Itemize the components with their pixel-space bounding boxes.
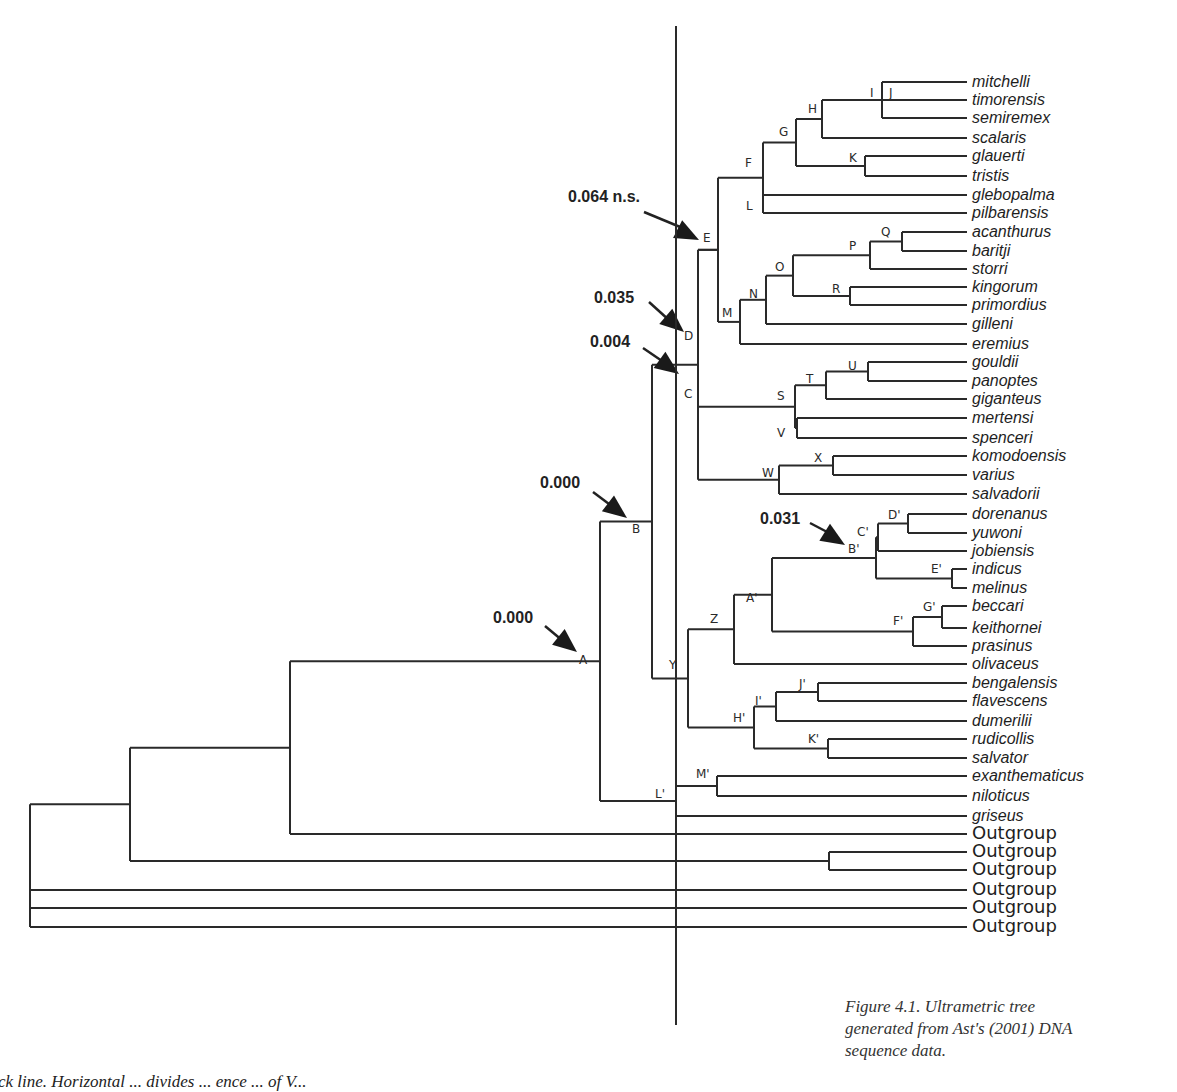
leaf-label-komodoensis: komodoensis <box>972 447 1066 464</box>
node-label: I' <box>755 694 762 708</box>
tree-labels: mitchellitimorensissemiremexscalarisglau… <box>970 73 1084 936</box>
node-label: G' <box>923 600 936 614</box>
node-label: K' <box>808 732 819 746</box>
node-label: S <box>777 389 785 403</box>
leaf-label-glebopalma: glebopalma <box>972 186 1055 203</box>
leaf-label-varius: varius <box>972 466 1015 483</box>
leaf-label-timorensis: timorensis <box>972 91 1045 108</box>
annotation-value: 0.064 n.s. <box>568 188 640 205</box>
leaf-label-giganteus: giganteus <box>972 390 1041 407</box>
phylogenetic-tree: mitchellitimorensissemiremexscalarisglau… <box>0 0 1177 1060</box>
node-label: J <box>888 86 893 100</box>
node-label: R <box>832 282 840 296</box>
leaf-label-salvadorii: salvadorii <box>972 485 1040 502</box>
leaf-label-tristis: tristis <box>972 167 1009 184</box>
node-label: G <box>779 125 788 139</box>
tree-branches <box>30 82 967 927</box>
node-label: M' <box>696 767 710 781</box>
annotation-value: 0.000 <box>493 609 533 626</box>
leaf-label-scalaris: scalaris <box>972 129 1026 146</box>
node-label: B' <box>848 542 860 556</box>
leaf-label-jobiensis: jobiensis <box>970 542 1034 559</box>
leaf-label-exanthematicus: exanthematicus <box>972 767 1084 784</box>
leaf-label-storri: storri <box>972 260 1008 277</box>
annotation-value: 0.004 <box>590 333 630 350</box>
leaf-label-dumerilii: dumerilii <box>972 712 1032 729</box>
figure-caption: Figure 4.1. Ultrametric tree generated f… <box>845 996 1165 1062</box>
node-label: E <box>703 231 711 245</box>
leaf-label-pilbarensis: pilbarensis <box>971 204 1048 221</box>
arrow-head-icon <box>659 309 684 332</box>
leaf-label-melinus: melinus <box>972 579 1027 596</box>
node-label: H <box>808 102 817 116</box>
leaf-label-olivaceus: olivaceus <box>972 655 1039 672</box>
leaf-label-og5: Outgroup <box>972 896 1057 917</box>
leaf-label-glauerti: glauerti <box>972 147 1025 164</box>
leaf-label-rudicollis: rudicollis <box>972 730 1034 747</box>
node-label: V <box>777 426 786 440</box>
node-label: C <box>684 387 692 401</box>
node-label: W <box>762 466 774 480</box>
node-label: O <box>775 260 784 274</box>
node-label: M <box>722 306 732 320</box>
leaf-label-dorenanus: dorenanus <box>972 505 1048 522</box>
caption-line-1: Figure 4.1. Ultrametric tree <box>845 996 1165 1018</box>
caption-line-2: generated from Ast's (2001) DNA <box>845 1018 1165 1040</box>
node-label: N <box>749 287 758 301</box>
annotation-value: 0.000 <box>540 474 580 491</box>
leaf-label-bengalensis: bengalensis <box>972 674 1057 691</box>
leaf-label-mertensi: mertensi <box>972 409 1034 426</box>
node-label: A' <box>746 591 758 605</box>
leaf-label-spenceri: spenceri <box>972 429 1033 446</box>
leaf-label-panoptes: panoptes <box>971 372 1038 389</box>
node-label: E' <box>931 562 942 576</box>
node-label: H' <box>733 711 745 725</box>
node-label: T <box>805 372 814 386</box>
node-label: I <box>870 86 874 100</box>
node-label: C' <box>857 525 869 539</box>
annotation-value: 0.031 <box>760 510 800 527</box>
arrow-head-icon <box>819 524 845 545</box>
arrow-shaft <box>644 212 685 229</box>
leaf-label-acanthurus: acanthurus <box>972 223 1051 240</box>
node-label: U <box>848 359 857 373</box>
leaf-label-yuwoni: yuwoni <box>971 524 1022 541</box>
leaf-label-mitchelli: mitchelli <box>972 73 1030 90</box>
node-label: F <box>745 156 752 170</box>
annotation-value: 0.035 <box>594 289 634 306</box>
leaf-label-og6: Outgroup <box>972 915 1057 936</box>
leaf-label-keithornei: keithornei <box>972 619 1042 636</box>
node-label: D <box>684 329 693 343</box>
node-label: K <box>849 151 858 165</box>
leaf-label-semiremex: semiremex <box>972 109 1051 126</box>
node-label: D' <box>888 508 901 522</box>
body-text-fragment: ck line. Horizontal ... divides ... ence… <box>0 1072 306 1092</box>
leaf-label-prasinus: prasinus <box>971 637 1032 654</box>
node-label: L' <box>655 787 665 801</box>
node-label: L <box>746 199 753 213</box>
leaf-label-niloticus: niloticus <box>972 787 1030 804</box>
leaf-label-indicus: indicus <box>972 560 1022 577</box>
leaf-label-gouldii: gouldii <box>972 353 1019 370</box>
node-label: P <box>849 239 856 253</box>
leaf-label-og3: Outgroup <box>972 858 1057 879</box>
node-label: A <box>579 653 588 667</box>
leaf-label-beccari: beccari <box>972 597 1024 614</box>
node-label: F' <box>893 614 903 628</box>
arrow-head-icon <box>552 629 577 652</box>
node-label: Z <box>710 612 718 626</box>
node-label: X <box>814 451 822 465</box>
caption-line-3: sequence data. <box>845 1040 1165 1062</box>
leaf-label-eremius: eremius <box>972 335 1029 352</box>
node-label: B <box>632 522 640 536</box>
leaf-label-gilleni: gilleni <box>972 315 1013 332</box>
leaf-label-baritji: baritji <box>972 242 1011 259</box>
leaf-label-flavescens: flavescens <box>972 692 1048 709</box>
node-label: J' <box>798 677 806 691</box>
leaf-label-primordius: primordius <box>971 296 1047 313</box>
leaf-label-salvator: salvator <box>972 749 1029 766</box>
leaf-label-kingorum: kingorum <box>972 278 1038 295</box>
node-label: Q <box>881 225 890 239</box>
arrow-head-icon <box>602 495 627 518</box>
